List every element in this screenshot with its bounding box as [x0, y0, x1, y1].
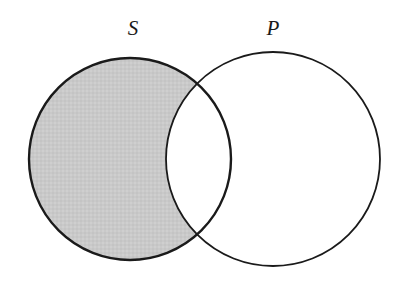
venn-diagram-canvas: S P — [0, 0, 402, 281]
venn-diagram-figure: S P — [0, 0, 402, 281]
circle-label-p: P — [266, 16, 280, 40]
circle-label-s: S — [128, 16, 139, 40]
